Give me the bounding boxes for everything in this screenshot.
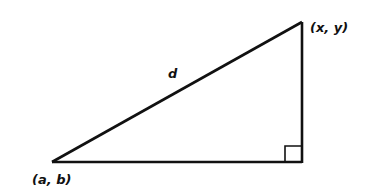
- diagram-canvas: (x, y) (a, b) d: [0, 0, 368, 194]
- right-angle-marker: [285, 146, 302, 162]
- hypotenuse-label: d: [168, 67, 177, 80]
- bottom-left-vertex-label: (a, b): [32, 173, 71, 186]
- hypotenuse-line: [52, 22, 302, 162]
- top-vertex-label: (x, y): [310, 21, 348, 34]
